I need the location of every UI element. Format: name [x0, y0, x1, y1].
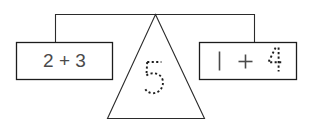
- diagram-canvas: 2 + 3 Bal: [0, 0, 313, 125]
- triangle-fulcrum: [108, 15, 205, 119]
- left-expression-text: 2 + 3: [43, 50, 86, 71]
- right-expression-box[interactable]: [200, 43, 297, 80]
- left-expression-box[interactable]: 2 + 3: [17, 43, 113, 80]
